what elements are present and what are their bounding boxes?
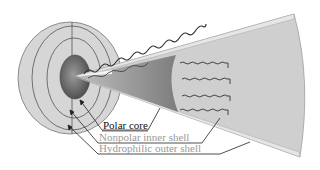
label-polar-core: Polar core	[103, 119, 148, 131]
polar-core-pointer	[148, 108, 160, 130]
label-hydrophilic-outer-shell: Hydrophilic outer shell	[99, 142, 201, 154]
micelle-diagram: Polar core Nonpolar inner shell Hydrophi…	[0, 0, 320, 170]
outer-shell-pointer	[220, 142, 250, 154]
